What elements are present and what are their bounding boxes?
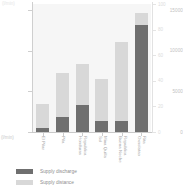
bar-group[interactable] [36, 104, 49, 132]
x-axis-label-text: RepublicaHonduras [78, 136, 87, 156]
x-axis-label: Pila [58, 136, 67, 166]
y-tick-mark [28, 51, 32, 52]
bar-segment[interactable] [36, 104, 49, 128]
bar-group[interactable] [95, 79, 108, 132]
secondary-y-tick-label: 100 [158, 2, 176, 7]
secondary-y-tick-mark [153, 30, 156, 31]
secondary-y-tick-mark [153, 132, 156, 133]
bar-group[interactable] [76, 64, 89, 132]
bar-segment[interactable] [56, 73, 69, 117]
plot-inner [33, 4, 151, 132]
legend-color-swatch [16, 169, 33, 174]
secondary-y-tick-mark [153, 55, 156, 56]
y-axis-line [32, 2, 33, 133]
legend-color-swatch [16, 180, 33, 185]
secondary-y-axis-line [152, 2, 153, 133]
bar-segment[interactable] [95, 79, 108, 121]
bar-segment[interactable] [115, 121, 128, 132]
secondary-y-tick-label: 80 [158, 27, 176, 32]
secondary-y-tick-label: 20 [158, 104, 176, 109]
plot-area [33, 4, 151, 132]
legend-label: Supply distance [40, 178, 74, 187]
y-tick-label: 5000 [153, 89, 183, 94]
secondary-y-tick-mark [153, 4, 156, 5]
bar-segment[interactable] [76, 64, 89, 105]
x-axis-line [32, 132, 152, 133]
secondary-y-tick-mark [153, 106, 156, 107]
bar-segment[interactable] [76, 105, 89, 132]
y-axis-title: (l/min) [2, 1, 15, 6]
x-axis-label-text: Pila [60, 136, 65, 143]
x-axis-label-text: RepublicaBuena Noche [117, 136, 126, 163]
bar-segment[interactable] [135, 25, 148, 132]
secondary-y-tick-mark [153, 81, 156, 82]
bar-segment[interactable] [56, 117, 69, 132]
x-axis-label: RepublicaBuena Noche [117, 136, 126, 166]
y-tick-mark [28, 132, 32, 133]
bar-segment[interactable] [115, 42, 128, 121]
x-axis-label: Mina QuillaSol [97, 136, 106, 166]
bar-segment[interactable] [95, 121, 108, 132]
secondary-y-tick-label: 0 [158, 130, 176, 135]
y-tick-label: 15000 [153, 8, 183, 13]
x-axis-label: El Pilar [38, 136, 47, 166]
y-axis-unit-label: (l/min) [1, 135, 14, 140]
bar-group[interactable] [56, 73, 69, 132]
chart-legend: Supply dischargeSupply distance [16, 167, 136, 189]
legend-item[interactable]: Supply distance [16, 178, 136, 189]
x-axis-labels: El PilarPilaRepublicaHondurasMina Quilla… [33, 136, 151, 166]
x-axis-label-text: RitaOxnolatao [137, 136, 146, 156]
bar-segment[interactable] [135, 13, 148, 25]
x-axis-label-text: El Pilar [41, 136, 46, 150]
bar-group[interactable] [115, 42, 128, 132]
x-axis-label: RitaOxnolatao [137, 136, 146, 166]
y-tick-mark [28, 91, 32, 92]
x-axis-label: RepublicaHonduras [78, 136, 87, 166]
secondary-y-tick-label: 40 [158, 78, 176, 83]
secondary-y-tick-label: 60 [158, 53, 176, 58]
legend-item[interactable]: Supply discharge [16, 167, 136, 178]
y-tick-mark [28, 10, 32, 11]
legend-label: Supply discharge [40, 167, 77, 176]
stacked-bar-chart: (l/min) 050001000015000 020406080100 (l/… [0, 0, 183, 193]
x-axis-label-text: Mina QuillaSol [97, 136, 106, 158]
bar-group[interactable] [135, 13, 148, 132]
